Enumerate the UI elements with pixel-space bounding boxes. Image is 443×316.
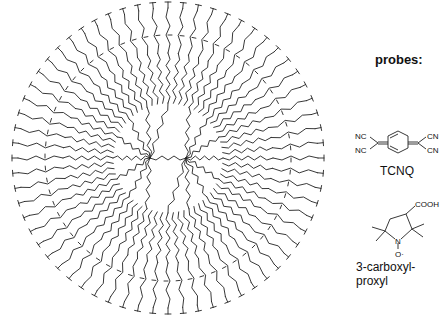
proxyl-atom-cooh: COOH: [415, 200, 439, 209]
probes-title: probes:: [375, 52, 423, 67]
dendrimer-structure: [0, 0, 345, 316]
tcnq-structure: NC NC CN CN: [352, 128, 443, 168]
tcnq-atom-cn-top: CN: [427, 132, 439, 141]
tcnq-atom-cn-bottom: CN: [427, 146, 439, 155]
proxyl-structure: COOH N O·: [360, 197, 443, 259]
proxyl-atom-n: N: [395, 237, 401, 246]
tcnq-atom-nc-bottom: NC: [355, 146, 367, 155]
proxyl-label: 3-carboxyl-proxyl: [356, 260, 443, 288]
proxyl-atom-o-radical: O·: [395, 250, 404, 259]
tcnq-label: TCNQ: [380, 164, 414, 178]
tcnq-atom-nc-top: NC: [355, 132, 367, 141]
